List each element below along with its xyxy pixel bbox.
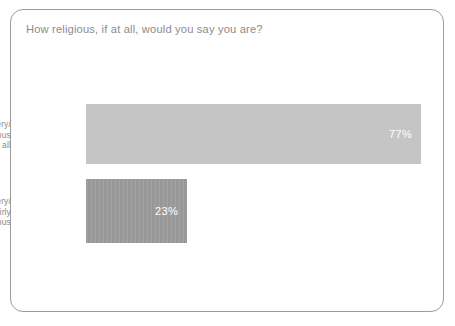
bar-category-label-line: religious xyxy=(0,217,11,228)
bar-value-label-not-religious: 77% xyxy=(389,128,412,140)
bar-category-label-line: Very/ xyxy=(0,196,11,207)
bar-category-label-line: fairly xyxy=(0,207,11,218)
bar-not-religious: 77% xyxy=(86,104,421,164)
bar-category-label-line: not religious xyxy=(0,130,11,141)
bar-value-label-religious: 23% xyxy=(155,205,178,217)
chart-card: How religious, if at all, would you say … xyxy=(10,9,444,312)
bar-category-label-not-religious: Not very/ not religious at all xyxy=(0,119,11,151)
bar-category-label-religious: Very/ fairly religious xyxy=(0,196,11,228)
bar-chart-plot-area: Not very/ not religious at all 77% Very/… xyxy=(11,10,445,313)
bar-religious: 23% xyxy=(86,179,187,243)
bar-category-label-line: at all xyxy=(0,140,11,151)
bar-category-label-line: Not very/ xyxy=(0,119,11,130)
